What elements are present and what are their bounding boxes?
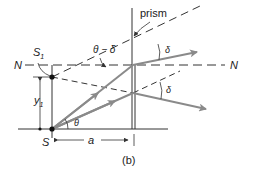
theta-delta-leader: [100, 58, 106, 67]
virtual-ray-lower: [52, 77, 133, 93]
a-label: a: [88, 134, 94, 146]
refracted-ray-lower: [133, 93, 206, 109]
delta-upper-label: δ: [165, 45, 171, 55]
prism-diagram: prism N N S1 S y1 θ θ − δ δ δ a (b): [0, 0, 253, 177]
s1-label: S1: [33, 46, 44, 60]
delta-arc-upper: [158, 44, 160, 60]
prism-leader: [134, 22, 150, 36]
source-point-s-left: [38, 127, 41, 130]
theta-label: θ: [74, 118, 79, 128]
source-point-s: [49, 126, 54, 131]
delta-arc-lower: [160, 82, 162, 99]
theta-minus-delta-label: θ − δ: [93, 44, 116, 55]
virtual-source-s1: [49, 74, 54, 79]
figure-caption: (b): [122, 154, 135, 166]
y1-label: y1: [33, 94, 44, 108]
diagram-svg: prism N N S1 S y1 θ θ − δ δ δ a (b): [0, 0, 253, 177]
n-right-label: N: [230, 59, 238, 71]
virtual-ray-lower-ext: [133, 71, 180, 93]
delta-lower-label: δ: [166, 85, 172, 95]
n-left-label: N: [14, 59, 22, 71]
s-label: S: [42, 136, 50, 148]
virtual-ray-upper: [52, 6, 200, 77]
prism-label: prism: [140, 7, 167, 19]
